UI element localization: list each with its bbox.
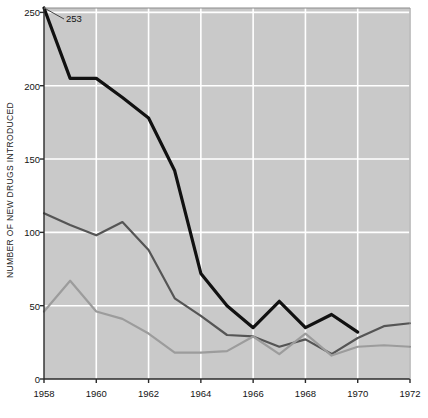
chart-plot-area [0, 0, 428, 418]
annotation-253: 253 [66, 13, 82, 24]
plot-background [44, 8, 410, 379]
chart-figure: NUMBER OF NEW DRUGS INTRODUCED 050100150… [0, 0, 428, 418]
